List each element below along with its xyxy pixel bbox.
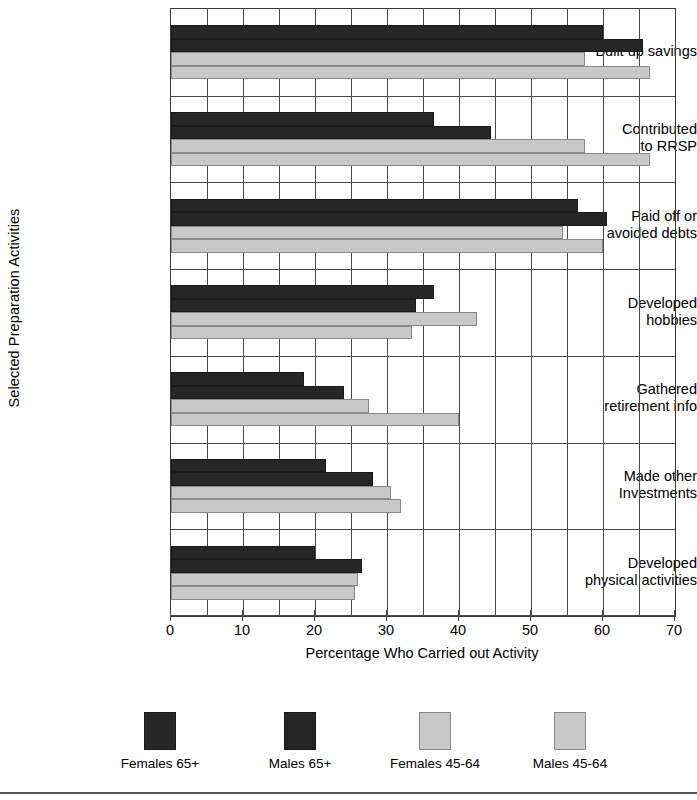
bar-chart-figure: Selected Preparation Activities Built up… bbox=[0, 0, 697, 800]
bar bbox=[171, 586, 355, 600]
bar-group bbox=[171, 443, 675, 530]
bar bbox=[171, 299, 416, 313]
y-axis-title: Selected Preparation Activities bbox=[0, 0, 28, 615]
x-axis-line bbox=[170, 615, 674, 616]
bar bbox=[171, 199, 578, 213]
bar bbox=[171, 413, 459, 427]
x-tick-70 bbox=[674, 610, 675, 621]
plot-area bbox=[170, 8, 676, 617]
x-axis-title: Percentage Who Carried out Activity bbox=[170, 645, 674, 661]
x-tick-label: 10 bbox=[222, 622, 262, 638]
bar bbox=[171, 285, 434, 299]
bar bbox=[171, 66, 650, 80]
bar bbox=[171, 559, 362, 573]
bar bbox=[171, 326, 412, 340]
x-tick-label: 70 bbox=[654, 622, 694, 638]
bar bbox=[171, 499, 401, 513]
x-tick-label: 30 bbox=[366, 622, 406, 638]
bar-group bbox=[171, 9, 675, 96]
bar bbox=[171, 399, 369, 413]
bar bbox=[171, 126, 491, 140]
legend-item[interactable]: Females 45-64 bbox=[375, 712, 495, 771]
legend-label: Males 65+ bbox=[240, 756, 360, 771]
x-tick-label: 60 bbox=[582, 622, 622, 638]
bar bbox=[171, 25, 603, 39]
bar bbox=[171, 386, 344, 400]
bar bbox=[171, 112, 434, 126]
legend-item[interactable]: Females 65+ bbox=[100, 712, 220, 771]
legend-item[interactable]: Males 45-64 bbox=[510, 712, 630, 771]
x-tick-20 bbox=[314, 610, 315, 621]
bar-group bbox=[171, 96, 675, 183]
legend-swatch bbox=[554, 712, 586, 750]
x-tick-label: 50 bbox=[510, 622, 550, 638]
legend-swatch bbox=[144, 712, 176, 750]
legend-label: Males 45-64 bbox=[510, 756, 630, 771]
bar bbox=[171, 139, 585, 153]
x-tick-label: 40 bbox=[438, 622, 478, 638]
x-tick-0 bbox=[170, 610, 171, 621]
bar bbox=[171, 372, 304, 386]
chart-legend: Females 65+Males 65+Females 45-64Males 4… bbox=[100, 712, 620, 774]
bar bbox=[171, 573, 358, 587]
legend-swatch bbox=[284, 712, 316, 750]
bottom-divider-rule bbox=[0, 792, 697, 794]
x-tick-label: 20 bbox=[294, 622, 334, 638]
bar bbox=[171, 153, 650, 167]
legend-swatch bbox=[419, 712, 451, 750]
y-axis-title-text: Selected Preparation Activities bbox=[6, 208, 22, 407]
bar bbox=[171, 312, 477, 326]
x-tick-60 bbox=[602, 610, 603, 621]
x-tick-30 bbox=[386, 610, 387, 621]
x-tick-10 bbox=[242, 610, 243, 621]
bar bbox=[171, 52, 585, 66]
bar bbox=[171, 239, 603, 253]
bar-group bbox=[171, 529, 675, 616]
legend-label: Females 65+ bbox=[100, 756, 220, 771]
x-tick-label: 0 bbox=[150, 622, 190, 638]
bar-group bbox=[171, 182, 675, 269]
bar bbox=[171, 546, 315, 560]
bar bbox=[171, 486, 391, 500]
legend-label: Females 45-64 bbox=[375, 756, 495, 771]
bar bbox=[171, 459, 326, 473]
bar-group bbox=[171, 269, 675, 356]
bar bbox=[171, 39, 643, 53]
bar bbox=[171, 472, 373, 486]
legend-item[interactable]: Males 65+ bbox=[240, 712, 360, 771]
bar-group bbox=[171, 356, 675, 443]
bar bbox=[171, 226, 563, 240]
x-tick-50 bbox=[530, 610, 531, 621]
x-tick-40 bbox=[458, 610, 459, 621]
bar bbox=[171, 212, 607, 226]
